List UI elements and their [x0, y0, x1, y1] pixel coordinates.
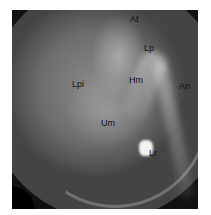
label-lp: Lp — [144, 44, 154, 53]
label-hm: Hm — [129, 76, 143, 85]
label-an: An — [179, 82, 190, 91]
label-lpi: Lpi — [72, 80, 84, 89]
label-um: Um — [101, 119, 115, 128]
label-lr: Lr — [149, 149, 157, 158]
dark-corner — [12, 183, 38, 209]
otoscopic-image — [12, 10, 198, 209]
label-at: At — [130, 15, 139, 24]
